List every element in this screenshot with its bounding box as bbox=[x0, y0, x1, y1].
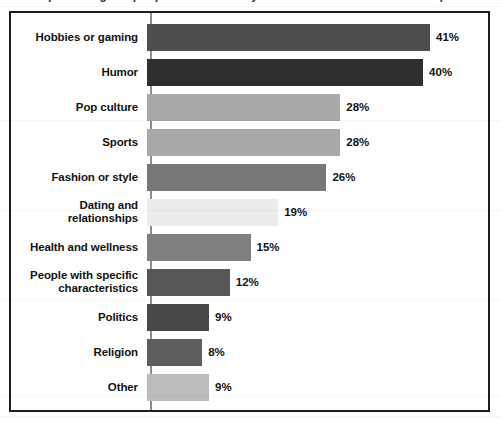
bar-row: Sports28% bbox=[11, 125, 488, 159]
bar bbox=[147, 59, 423, 86]
bar-row: Health and wellness15% bbox=[11, 230, 488, 264]
bar-value-label: 9% bbox=[209, 381, 232, 393]
bar-category-label: Sports bbox=[11, 136, 144, 149]
bar-track: 28% bbox=[144, 90, 488, 124]
bar-track: 15% bbox=[144, 230, 488, 264]
bar-value-label: 9% bbox=[209, 311, 232, 323]
bar-category-label: Fashion or style bbox=[11, 171, 144, 184]
bar bbox=[147, 269, 230, 296]
bar-row: Dating and relationships19% bbox=[11, 195, 488, 229]
bar-row: Fashion or style26% bbox=[11, 160, 488, 194]
bar-row: Other9% bbox=[11, 370, 488, 404]
bar-category-label: Religion bbox=[11, 346, 144, 359]
bar-category-label: Dating and relationships bbox=[11, 199, 144, 225]
bar-value-label: 26% bbox=[326, 171, 355, 183]
bar bbox=[147, 164, 326, 191]
bar bbox=[147, 199, 278, 226]
bar-row: Pop culture28% bbox=[11, 90, 488, 124]
bar bbox=[147, 129, 340, 156]
bar-row: People with specificcharacteristics12% bbox=[11, 265, 488, 299]
bar-category-label: Health and wellness bbox=[11, 241, 144, 254]
clipped-header-text: percentage of people who said they follo… bbox=[0, 0, 501, 11]
bar-track: 41% bbox=[144, 20, 488, 54]
bar-value-label: 15% bbox=[251, 241, 280, 253]
bar-track: 28% bbox=[144, 125, 488, 159]
bar bbox=[147, 339, 202, 366]
scan-artifact bbox=[0, 416, 501, 417]
bar-track: 40% bbox=[144, 55, 488, 89]
bar-category-label: Politics bbox=[11, 311, 144, 324]
bar-category-label: Other bbox=[11, 381, 144, 394]
bar bbox=[147, 24, 430, 51]
bar bbox=[147, 374, 209, 401]
bar bbox=[147, 94, 340, 121]
bar-row: Hobbies or gaming41% bbox=[11, 20, 488, 54]
bar-category-label: Pop culture bbox=[11, 101, 144, 114]
bar-track: 26% bbox=[144, 160, 488, 194]
bar-value-label: 19% bbox=[278, 206, 307, 218]
bar-row: Politics9% bbox=[11, 300, 488, 334]
bar bbox=[147, 304, 209, 331]
bar-value-label: 40% bbox=[423, 66, 452, 78]
bar-row: Religion8% bbox=[11, 335, 488, 369]
bar-track: 12% bbox=[144, 265, 488, 299]
bar-category-label: Hobbies or gaming bbox=[11, 31, 144, 44]
clipped-header-text-label: percentage of people who said they follo… bbox=[48, 0, 457, 2]
chart-frame: Hobbies or gaming41%Humor40%Pop culture2… bbox=[9, 11, 490, 412]
bar-value-label: 12% bbox=[230, 276, 259, 288]
bar-track: 9% bbox=[144, 300, 488, 334]
bar-value-label: 28% bbox=[340, 101, 369, 113]
bar-row: Humor40% bbox=[11, 55, 488, 89]
bar-category-label-line2: characteristics bbox=[11, 282, 138, 295]
bar-value-label: 28% bbox=[340, 136, 369, 148]
bar-chart-plot-area: Hobbies or gaming41%Humor40%Pop culture2… bbox=[11, 13, 488, 410]
bar bbox=[147, 234, 251, 261]
bar-track: 8% bbox=[144, 335, 488, 369]
bar-track: 9% bbox=[144, 370, 488, 404]
bar-value-label: 41% bbox=[430, 31, 459, 43]
bar-value-label: 8% bbox=[202, 346, 225, 358]
bar-category-label: People with specificcharacteristics bbox=[11, 269, 144, 295]
bar-category-label-line1: People with specific bbox=[11, 269, 138, 282]
bar-category-label: Humor bbox=[11, 66, 144, 79]
bar-track: 19% bbox=[144, 195, 488, 229]
